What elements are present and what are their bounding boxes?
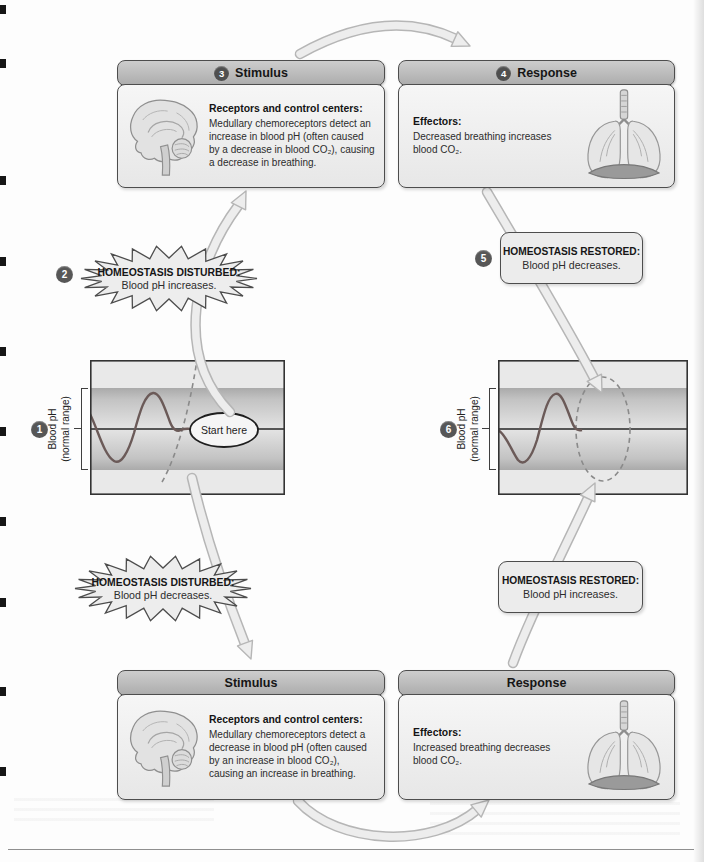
bracket-midtick — [482, 428, 489, 429]
blood-ph-graph-right — [498, 360, 688, 495]
edge-mark — [0, 598, 6, 607]
stimulus-panel-bottom-header: Stimulus — [117, 670, 385, 696]
panel-title: Stimulus — [235, 66, 288, 80]
y-axis-label-line1: Blood pH — [456, 396, 469, 462]
y-axis-label-line2: (normal range) — [59, 396, 72, 462]
start-here-label: Start here — [201, 424, 247, 436]
stimulus-panel-bottom-body: Receptors and control centers: Medullary… — [117, 694, 385, 800]
print-bleed — [430, 802, 680, 838]
y-axis-label-line1: Blood pH — [47, 396, 60, 462]
callout-body: Blood pH decreases. — [114, 589, 212, 601]
arrowhead — [231, 191, 246, 210]
panel-heading: Effectors: — [413, 727, 573, 738]
panel-heading: Receptors and control centers: — [209, 714, 375, 725]
panel-title: Stimulus — [225, 676, 278, 690]
print-bleed — [14, 798, 214, 826]
panel-paragraph: Medullary chemoreceptors detect an incre… — [209, 117, 375, 169]
stimulus-panel-top-header: 3 Stimulus — [117, 60, 385, 86]
response-panel-top-header: 4 Response — [398, 60, 675, 86]
callout-body: Blood pH increases. — [523, 588, 618, 600]
edge-mark — [0, 257, 6, 266]
y-axis-label-line2: (normal range) — [468, 396, 481, 462]
response-panel-top-body: Effectors: Decreased breathing increases… — [398, 84, 675, 188]
page-gutter-shadow — [693, 0, 704, 862]
stimulus-panel-top: 3 Stimulus Receptors and control centers… — [117, 60, 385, 188]
callout-title: HOMEOSTASIS DISTURBED: — [98, 267, 241, 278]
arrowhead — [451, 32, 470, 47]
callout-title: HOMEOSTASIS DISTURBED: — [92, 577, 235, 588]
homeostasis-disturbed-top: HOMEOSTASIS DISTURBED: Blood pH increase… — [80, 245, 258, 312]
bracket-midtick — [74, 428, 81, 429]
edge-mark — [0, 427, 6, 436]
y-axis-label: Blood pH (normal range) — [456, 396, 481, 462]
panel-paragraph: Medullary chemoreceptors detect a decrea… — [209, 728, 375, 780]
edge-mark — [0, 347, 6, 356]
page-rule — [8, 849, 694, 850]
callout-body: Blood pH increases. — [122, 279, 217, 291]
homeostasis-restored-bottom: HOMEOSTASIS RESTORED: Blood pH increases… — [498, 561, 643, 613]
lungs-icon — [576, 699, 671, 795]
brain-icon — [124, 96, 206, 176]
panel-title: Response — [517, 66, 577, 80]
y-axis-label: Blood pH (normal range) — [47, 396, 72, 462]
panel-paragraph: Decreased breathing increases blood CO₂. — [413, 130, 573, 156]
response-panel-bottom-header: Response — [398, 670, 675, 696]
homeostasis-restored-top: HOMEOSTASIS RESTORED: Blood pH decreases… — [500, 232, 643, 284]
response-panel-bottom-body: Effectors: Increased breathing decreases… — [398, 694, 675, 800]
response-panel-top: 4 Response Effectors: Decreased breathin… — [398, 60, 675, 188]
edge-mark — [0, 767, 6, 776]
callout-body: Blood pH decreases. — [522, 259, 620, 271]
normal-range-bracket — [81, 388, 88, 470]
step-badge-3: 3 — [214, 66, 229, 81]
panel-heading: Effectors: — [413, 116, 573, 127]
stimulus-panel-top-body: Receptors and control centers: Medullary… — [117, 84, 385, 188]
callout-title: HOMEOSTASIS RESTORED: — [503, 246, 640, 257]
normal-range-bracket — [489, 388, 496, 470]
edge-mark — [0, 517, 6, 526]
stimulus-panel-bottom: Stimulus Receptors and control centers: … — [117, 670, 385, 800]
step-badge-2: 2 — [56, 266, 73, 283]
homeostasis-disturbed-bottom: HOMEOSTASIS DISTURBED: Blood pH decrease… — [74, 555, 252, 622]
lungs-icon — [576, 88, 671, 184]
blood-ph-graph-left: Start here — [90, 360, 285, 495]
step-badge-4: 4 — [496, 66, 511, 81]
arrowhead — [238, 640, 253, 659]
brain-icon — [124, 707, 206, 787]
edge-mark — [0, 176, 6, 185]
edge-mark — [0, 5, 6, 14]
edge-mark — [0, 687, 6, 696]
homeostasis-figure: Start here Blood pH (normal range) 1 — [0, 0, 704, 862]
panel-paragraph: Increased breathing decreases blood CO₂. — [413, 741, 573, 767]
response-panel-bottom: Response Effectors: Increased breathing … — [398, 670, 675, 800]
step-badge-6: 6 — [440, 421, 457, 438]
panel-heading: Receptors and control centers: — [209, 103, 375, 114]
arrow-stimulus-to-response-top — [300, 26, 470, 54]
step-badge-5: 5 — [475, 250, 492, 267]
callout-title: HOMEOSTASIS RESTORED: — [502, 575, 639, 586]
panel-title: Response — [507, 676, 567, 690]
edge-mark — [0, 59, 6, 68]
step-badge-1: 1 — [31, 421, 48, 438]
